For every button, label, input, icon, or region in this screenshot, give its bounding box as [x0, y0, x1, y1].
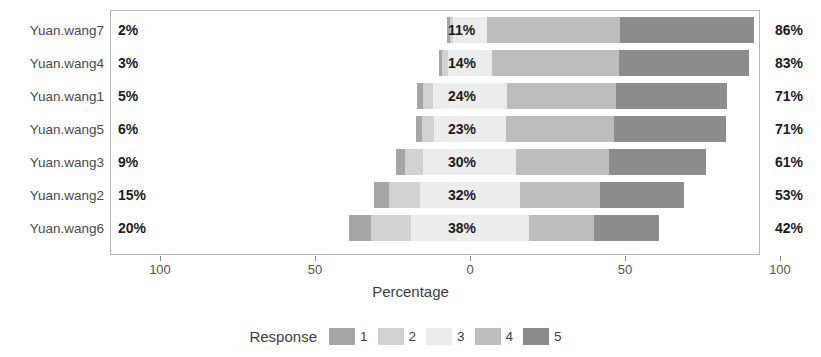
- left-percent-label: 5%: [118, 80, 170, 113]
- legend-swatch-1: [329, 328, 355, 345]
- x-axis-tick-label: 0: [440, 262, 500, 277]
- x-axis-tick: [470, 256, 471, 261]
- stacked-bar: [447, 17, 754, 43]
- legend-title: Response: [249, 328, 317, 345]
- legend: Response 12345: [0, 328, 821, 345]
- bar-segment-2: [389, 182, 420, 208]
- bar-segment-1: [374, 182, 390, 208]
- bar-segment-1: [396, 149, 405, 175]
- legend-item-1[interactable]: 1: [329, 328, 368, 345]
- y-axis-label: Yuan.wang7: [0, 14, 104, 47]
- right-percent-label: 71%: [775, 113, 821, 146]
- right-percent-label: 61%: [775, 146, 821, 179]
- y-axis-label: Yuan.wang2: [0, 179, 104, 212]
- center-percent-label: 32%: [448, 182, 476, 208]
- x-axis-title: Percentage: [0, 283, 821, 300]
- legend-swatch-3: [426, 328, 452, 345]
- bar-segment-2: [422, 116, 434, 142]
- center-percent-label: 11%: [448, 17, 475, 43]
- center-percent-label: 24%: [448, 83, 476, 109]
- bar-segment-5: [620, 17, 753, 43]
- y-axis-label: Yuan.wang3: [0, 146, 104, 179]
- legend-items: 12345: [329, 328, 572, 345]
- bar-segment-5: [616, 83, 728, 109]
- bar-segment-5: [600, 182, 684, 208]
- right-percent-label: 71%: [775, 80, 821, 113]
- bar-segment-5: [609, 149, 705, 175]
- bar-segment-4: [516, 149, 609, 175]
- legend-item-3[interactable]: 3: [426, 328, 465, 345]
- x-axis-tick-label: 100: [750, 262, 810, 277]
- x-axis-tick-label: 50: [595, 262, 655, 277]
- bar-segment-4: [492, 50, 619, 76]
- bar-segment-5: [594, 215, 659, 241]
- bar-segment-4: [487, 17, 620, 43]
- x-axis-tick: [625, 256, 626, 261]
- left-percent-label: 6%: [118, 113, 170, 146]
- legend-label-5: 5: [554, 329, 562, 344]
- bar-segment-5: [614, 116, 726, 142]
- bar-segment-5: [619, 50, 749, 76]
- x-axis-tick-label: 100: [130, 262, 190, 277]
- right-percent-label: 42%: [775, 212, 821, 245]
- right-percent-label: 83%: [775, 47, 821, 80]
- stacked-bar: [439, 50, 749, 76]
- x-axis-tick: [160, 256, 161, 261]
- x-axis-tick-label: 50: [285, 262, 345, 277]
- center-percent-label: 23%: [448, 116, 476, 142]
- legend-label-1: 1: [360, 329, 368, 344]
- left-percent-label: 2%: [118, 14, 170, 47]
- legend-item-5[interactable]: 5: [523, 328, 562, 345]
- legend-label-3: 3: [457, 329, 465, 344]
- right-percent-label: 53%: [775, 179, 821, 212]
- right-percent-label: 86%: [775, 14, 821, 47]
- legend-swatch-5: [523, 328, 549, 345]
- x-axis-tick: [315, 256, 316, 261]
- y-axis-label: Yuan.wang1: [0, 80, 104, 113]
- legend-label-4: 4: [506, 329, 514, 344]
- bar-segment-4: [520, 182, 601, 208]
- x-axis-tick: [780, 256, 781, 261]
- center-percent-label: 30%: [448, 149, 476, 175]
- center-percent-label: 38%: [448, 215, 476, 241]
- stacked-bar: [374, 182, 684, 208]
- y-axis-label: Yuan.wang4: [0, 47, 104, 80]
- legend-swatch-2: [378, 328, 404, 345]
- legend-item-4[interactable]: 4: [475, 328, 514, 345]
- bar-segment-2: [371, 215, 411, 241]
- bar-segment-2: [405, 149, 424, 175]
- likert-diverging-bar-chart: Yuan.wang7Yuan.wang4Yuan.wang1Yuan.wang5…: [0, 0, 821, 357]
- left-percent-label: 15%: [118, 179, 170, 212]
- bar-segment-4: [529, 215, 594, 241]
- left-percent-label: 9%: [118, 146, 170, 179]
- legend-label-2: 2: [409, 329, 417, 344]
- bar-segment-4: [506, 116, 615, 142]
- stacked-bar: [396, 149, 706, 175]
- legend-swatch-4: [475, 328, 501, 345]
- bar-segment-1: [349, 215, 371, 241]
- center-percent-label: 14%: [448, 50, 476, 76]
- legend-item-2[interactable]: 2: [378, 328, 417, 345]
- left-percent-label: 20%: [118, 212, 170, 245]
- y-axis-label: Yuan.wang6: [0, 212, 104, 245]
- left-percent-label: 3%: [118, 47, 170, 80]
- bar-segment-4: [507, 83, 616, 109]
- bar-segment-2: [423, 83, 432, 109]
- stacked-bar: [349, 215, 659, 241]
- y-axis-label: Yuan.wang5: [0, 113, 104, 146]
